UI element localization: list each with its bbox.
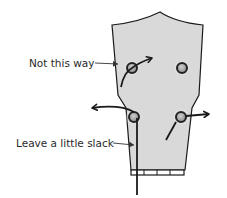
not-this-way-leader	[95, 63, 118, 64]
headstock-shape	[112, 12, 203, 170]
leave-slack-label: Leave a little slack	[16, 137, 114, 149]
not-this-way-label: Not this way	[29, 57, 94, 69]
headstock-diagram	[0, 0, 227, 198]
peg-top-right	[173, 59, 191, 77]
peg-bottom-left	[125, 108, 143, 126]
nut	[131, 170, 184, 175]
